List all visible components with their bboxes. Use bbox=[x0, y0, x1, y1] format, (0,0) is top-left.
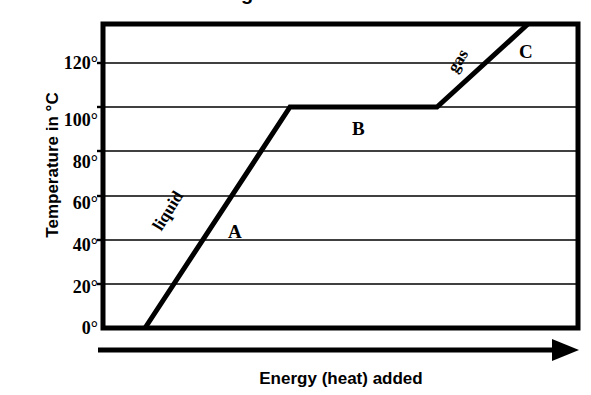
heating-curve-line bbox=[145, 24, 528, 328]
plot-area bbox=[0, 0, 591, 395]
x-axis-title: Energy (heat) added bbox=[103, 369, 579, 389]
segment-label-c: C bbox=[519, 41, 533, 63]
x-axis-arrow bbox=[98, 339, 579, 361]
segment-label-b: B bbox=[352, 118, 365, 140]
heating-curve-figure: Heating Curve for Water Temperature in °… bbox=[0, 0, 591, 395]
gridlines bbox=[103, 63, 578, 284]
segment-label-a: A bbox=[228, 221, 242, 243]
x-axis-arrow-head bbox=[552, 339, 579, 361]
